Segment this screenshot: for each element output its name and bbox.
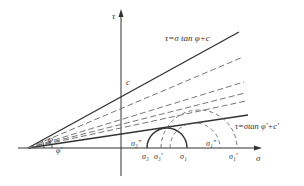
mohr-circle-total (147, 128, 187, 148)
tau-axis-arrow-icon (119, 9, 124, 17)
upper-envelope-label: τ=σ tan φ+c (165, 34, 210, 43)
angle-phi-prime-label: φ′ (56, 147, 62, 155)
sigma3-prime-label: σ₃′ (154, 153, 162, 161)
dashed-envelopes (28, 57, 246, 148)
tau-axis-label: τ (112, 12, 115, 21)
lower-envelope-label: τ=σtan φ′+c′ (235, 122, 279, 131)
sigma3-double-prime-label: σ₃″ (131, 140, 141, 148)
envelope-total (28, 32, 239, 148)
sigma3-label: σ₃ (142, 153, 149, 161)
sigma1-double-prime-label: σ₁″ (206, 140, 216, 148)
sigma-axis-label: σ (256, 154, 260, 163)
sigma-axis-arrow-icon (254, 146, 262, 151)
angle-phi-label: φ (48, 135, 53, 144)
sigma1-label: σ₁ (180, 153, 187, 161)
sigma1-prime-label: σ₁′ (229, 153, 237, 161)
intercept-c-label: c (126, 78, 130, 87)
mohr-coulomb-diagram: τ σ c τ=σ tan φ+c τ=σtan φ′+c′ φ φ′ σ₃″ … (0, 0, 304, 186)
